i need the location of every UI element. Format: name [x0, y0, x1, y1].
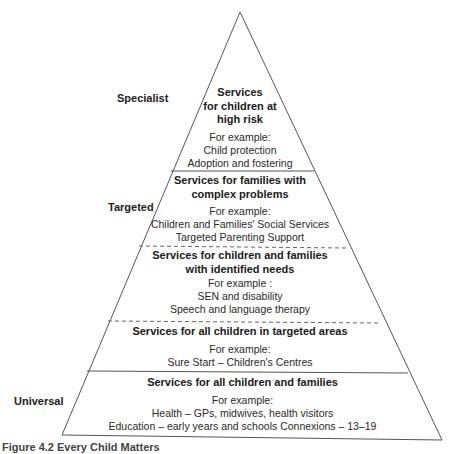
- title-line: for children at: [180, 100, 300, 114]
- tier-complex-problems: Services for families with complex probl…: [140, 174, 340, 244]
- example-item: Speech and language therapy: [130, 303, 350, 316]
- title-line: Services: [180, 86, 300, 100]
- example-item: SEN and disability: [130, 290, 350, 303]
- tier-examples: For example: Children and Families' Soci…: [140, 205, 340, 244]
- title-line: Services for children and families: [130, 249, 350, 263]
- tier-title: Services for all children and families: [70, 376, 415, 390]
- example-label: For example:: [70, 394, 415, 407]
- tier-examples: For example: Health – GPs, midwives, hea…: [70, 394, 415, 433]
- tier-examples: For example: Sure Start – Children's Cen…: [110, 343, 370, 369]
- tier-high-risk: Services for children at high risk For e…: [180, 86, 300, 170]
- divider-targeted-universal: [87, 371, 408, 373]
- example-label: For example:: [140, 205, 340, 218]
- divider-needs-areas: [108, 321, 381, 323]
- example-label: For example :: [130, 277, 350, 290]
- example-label: For example:: [110, 343, 370, 356]
- tier-examples: For example: Child protection Adoption a…: [180, 131, 300, 170]
- title-line: Services for all children in targeted ar…: [110, 325, 370, 339]
- example-item: Child protection: [180, 144, 300, 157]
- title-line: Services for all children and families: [70, 376, 415, 390]
- tier-all-children: Services for all children and families F…: [70, 376, 415, 433]
- example-item: Children and Families' Social Services: [140, 218, 340, 231]
- title-line: complex problems: [140, 188, 340, 202]
- tier-title: Services for children at high risk: [180, 86, 300, 127]
- example-item: Targeted Parenting Support: [140, 231, 340, 244]
- divider-targeted-complex-needs: [139, 246, 347, 248]
- example-item: Education – early years and schools Conn…: [70, 420, 415, 433]
- tier-title: Services for all children in targeted ar…: [110, 325, 370, 339]
- label-universal: Universal: [14, 395, 64, 407]
- tier-title: Services for families with complex probl…: [140, 174, 340, 201]
- title-line: with identified needs: [130, 263, 350, 277]
- example-label: For example:: [180, 131, 300, 144]
- figure-caption: Figure 4.2 Every Child Matters: [2, 441, 160, 453]
- tier-examples: For example : SEN and disability Speech …: [130, 277, 350, 316]
- tier-identified-needs: Services for children and families with …: [130, 249, 350, 316]
- example-item: Sure Start – Children's Centres: [110, 356, 370, 369]
- label-specialist: Specialist: [117, 92, 168, 104]
- title-line: high risk: [180, 113, 300, 127]
- example-item: Adoption and fostering: [180, 157, 300, 170]
- tier-targeted-areas: Services for all children in targeted ar…: [110, 325, 370, 369]
- tier-title: Services for children and families with …: [130, 249, 350, 276]
- example-item: Health – GPs, midwives, health visitors: [70, 407, 415, 420]
- title-line: Services for families with: [140, 174, 340, 188]
